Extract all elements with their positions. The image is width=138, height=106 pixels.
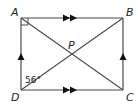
rectangle-diagram: A B C D P 56°	[0, 0, 138, 106]
double-arrow-ab-icon	[63, 15, 77, 22]
vertex-label-d: D	[11, 91, 19, 104]
intersection-label-p: P	[68, 39, 75, 52]
arrow-ad-icon	[18, 53, 25, 60]
vertex-label-c: C	[126, 91, 134, 104]
angle-label-d: 56°	[25, 75, 41, 85]
vertex-label-a: A	[10, 6, 19, 19]
double-arrow-dc-icon	[63, 87, 77, 94]
vertex-label-b: B	[126, 6, 134, 19]
arrow-bc-icon	[120, 53, 127, 60]
